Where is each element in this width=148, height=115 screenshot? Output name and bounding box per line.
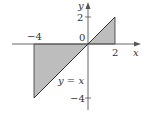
- x-axis-arrow-icon: [134, 42, 141, 47]
- y-tick-label-neg4: −4: [70, 93, 85, 104]
- x-axis-label: x: [133, 47, 139, 58]
- y-axis-arrow-icon: [86, 2, 91, 9]
- y-axis-label: y: [77, 0, 84, 11]
- x-tick-label-neg4: −4: [27, 31, 42, 42]
- function-label: y = x: [57, 75, 84, 86]
- origin-label: 0: [79, 32, 85, 43]
- x-tick-label-2: 2: [112, 47, 118, 58]
- y-tick-label-2: 2: [77, 12, 83, 23]
- graph-diagram: y x −4 0 2 2 −4 y = x: [0, 0, 148, 115]
